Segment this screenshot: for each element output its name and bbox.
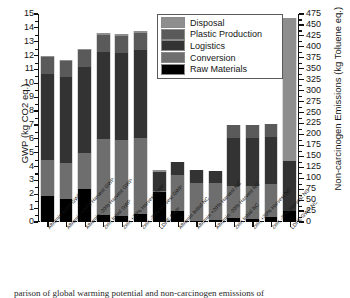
y-axis-left-minor-tick xyxy=(35,21,38,22)
y-axis-left-tick-label: 15 xyxy=(0,8,34,18)
y-axis-right-minor-tick xyxy=(299,184,302,185)
bar-segment xyxy=(114,34,129,35)
bar-segment xyxy=(59,77,74,163)
bar-segment xyxy=(245,125,260,138)
y-axis-left-minor-tick xyxy=(35,118,38,119)
legend-label: Conversion xyxy=(190,53,236,63)
bar-segment xyxy=(77,49,92,50)
y-axis-right-tick xyxy=(299,68,304,69)
bar-segment xyxy=(133,31,148,32)
y-axis-right-minor-tick xyxy=(299,85,302,86)
y-axis-right-tick-label: 225 xyxy=(306,117,346,127)
y-axis-right-minor-tick xyxy=(299,107,302,108)
y-axis-left-minor-tick xyxy=(35,63,38,64)
y-axis-right-minor-tick xyxy=(299,63,302,64)
y-axis-left-tick xyxy=(34,41,39,42)
bar-segment xyxy=(59,163,74,199)
y-axis-right-tick-label: 125 xyxy=(306,161,346,171)
y-axis-right-tick-label: 450 xyxy=(306,19,346,29)
y-axis-right-tick-label: 250 xyxy=(306,107,346,117)
y-axis-left-minor-tick xyxy=(35,132,38,133)
y-axis-right-tick xyxy=(299,112,304,113)
y-axis-right-tick-label: 300 xyxy=(306,85,346,95)
bar-segment xyxy=(282,18,297,160)
y-axis-right-minor-tick xyxy=(299,96,302,97)
y-axis-left-tick xyxy=(34,166,39,167)
y-axis-left-tick xyxy=(34,13,39,14)
y-axis-right-tick xyxy=(299,178,304,179)
y-axis-left-tick xyxy=(34,138,39,139)
y-axis-right-tick xyxy=(299,35,304,36)
bar-segment xyxy=(59,60,74,77)
legend-swatch xyxy=(161,52,185,63)
y-axis-right-tick-label: 475 xyxy=(306,8,346,18)
bar-segment xyxy=(114,53,129,140)
y-axis-left-tick xyxy=(34,83,39,84)
y-axis-right-tick-label: 200 xyxy=(306,128,346,138)
y-axis-left-tick xyxy=(34,221,39,222)
legend-label: Raw Materials xyxy=(190,64,247,74)
y-axis-left-tick xyxy=(34,180,39,181)
bar-segment xyxy=(245,138,260,186)
y-axis-right-tick-label: 400 xyxy=(306,41,346,51)
y-axis-left-tick xyxy=(34,69,39,70)
bar-stack xyxy=(59,14,74,222)
y-axis-left-tick xyxy=(34,124,39,125)
y-axis-right-minor-tick xyxy=(299,162,302,163)
y-axis-right-tick-label: 150 xyxy=(306,150,346,160)
y-axis-left-tick-label: 2 xyxy=(0,188,34,198)
y-axis-left-tick xyxy=(34,194,39,195)
bar-stack xyxy=(77,14,92,222)
y-axis-right-minor-tick xyxy=(299,129,302,130)
y-axis-right-tick-label: 275 xyxy=(306,96,346,106)
y-axis-left-tick-label: 1 xyxy=(0,202,34,212)
y-axis-left-minor-tick xyxy=(35,49,38,50)
y-axis-right-tick xyxy=(299,156,304,157)
legend-swatch xyxy=(161,29,185,40)
y-axis-left-tick-label: 6 xyxy=(0,133,34,143)
y-axis-left-minor-tick xyxy=(35,146,38,147)
y-axis-left-minor-tick xyxy=(35,35,38,36)
y-axis-left-minor-tick xyxy=(35,160,38,161)
bar-segment xyxy=(152,170,167,172)
y-axis-right-tick-label: 350 xyxy=(306,63,346,73)
bar-segment xyxy=(189,170,204,183)
y-axis-right-tick-label: 0 xyxy=(306,216,346,226)
y-axis-right-tick xyxy=(299,57,304,58)
legend-item: Logistics xyxy=(161,40,279,52)
bar-segment xyxy=(40,56,55,57)
y-axis-left-minor-tick xyxy=(35,187,38,188)
bar-segment xyxy=(77,67,92,154)
y-axis-right-tick xyxy=(299,167,304,168)
y-axis-left-tick-label: 0 xyxy=(0,216,34,226)
legend-label: Plastic Production xyxy=(190,29,262,39)
y-axis-right-tick xyxy=(299,79,304,80)
y-axis-right-minor-tick xyxy=(299,206,302,207)
legend-label: Logistics xyxy=(190,41,225,51)
y-axis-right-minor-tick xyxy=(299,140,302,141)
legend-swatch xyxy=(161,40,185,51)
y-axis-left-tick xyxy=(34,110,39,111)
legend-swatch xyxy=(161,17,185,28)
y-axis-left-tick xyxy=(34,27,39,28)
y-axis-right-minor-tick xyxy=(299,52,302,53)
y-axis-left-tick-label: 8 xyxy=(0,105,34,115)
y-axis-right-tick-label: 75 xyxy=(306,183,346,193)
y-axis-right-tick xyxy=(299,123,304,124)
bar-stack xyxy=(40,14,55,222)
legend-swatch xyxy=(161,64,185,75)
bar-segment xyxy=(133,50,148,138)
y-axis-right-minor-tick xyxy=(299,30,302,31)
y-axis-right-minor-tick xyxy=(299,19,302,20)
bar-segment xyxy=(226,138,241,186)
y-axis-left-minor-tick xyxy=(35,90,38,91)
y-axis-right-tick-label: 425 xyxy=(306,30,346,40)
bar-segment xyxy=(264,137,279,184)
chart-legend: DisposalPlastic ProductionLogisticsConve… xyxy=(157,14,283,79)
y-axis-right-minor-tick xyxy=(299,151,302,152)
y-axis-left-tick-label: 3 xyxy=(0,174,34,184)
y-axis-right-minor-tick xyxy=(299,118,302,119)
y-axis-left-tick-label: 4 xyxy=(0,161,34,171)
figure-caption: parison of global warming potential and … xyxy=(14,288,344,298)
legend-item: Plastic Production xyxy=(161,29,279,41)
